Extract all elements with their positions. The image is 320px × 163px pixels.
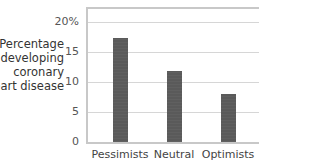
bar-pessimists (113, 38, 128, 142)
x-axis-baseline (86, 142, 259, 144)
y-tick-label: 10 (49, 75, 79, 88)
y-tick-label: 5 (49, 105, 79, 118)
y-tick-label: 20% (49, 15, 79, 28)
x-tick-label: Neutral (144, 148, 204, 161)
gridline (88, 22, 259, 23)
bar-optimists (221, 94, 236, 142)
bar-neutral (167, 71, 182, 142)
y-tick-label: 0 (49, 135, 79, 148)
x-tick-label: Pessimists (90, 148, 150, 161)
x-tick-label: Optimists (198, 148, 258, 161)
y-tick-label: 15 (49, 45, 79, 58)
